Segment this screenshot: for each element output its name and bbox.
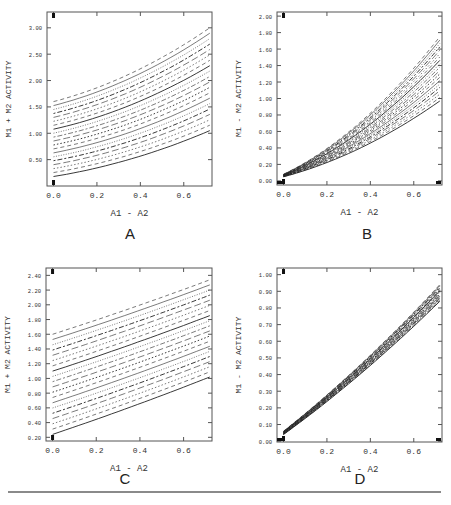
y-axis-label: M1 + M2 ACTIVITY: [4, 60, 13, 137]
x-tick-label: 0.0: [45, 446, 60, 455]
x-tick-label: 0.4: [363, 447, 378, 456]
plot-frame: [46, 268, 212, 441]
y-tick-label: 0.60: [259, 129, 272, 136]
y-tick-label: 0.40: [28, 420, 41, 427]
y-tick-label: 1.00: [28, 376, 41, 383]
data-curve: [54, 131, 210, 177]
y-tick-label: 0.40: [259, 372, 272, 379]
data-curve: [53, 280, 210, 335]
data-curve: [53, 290, 210, 345]
data-curve: [284, 40, 440, 174]
data-curve: [54, 71, 210, 133]
x-tick-label: 0.0: [276, 190, 291, 199]
plot-frame: [277, 268, 442, 442]
x-tick-label: 0.4: [133, 191, 148, 200]
y-tick-label: 0.80: [259, 305, 272, 312]
x-tick-label: 0.2: [320, 447, 335, 456]
data-curve: [54, 60, 210, 125]
data-curve: [284, 47, 440, 175]
data-curve: [53, 300, 210, 355]
y-tick-label: 0.20: [259, 405, 272, 412]
y-axis-label: M1 - M2 ACTIVITY: [234, 316, 243, 393]
data-curve: [284, 50, 440, 175]
data-curve: [54, 82, 210, 141]
x-tick-label: 0.6: [407, 447, 422, 456]
panel-title-c: C: [110, 470, 140, 487]
data-curve: [54, 50, 210, 118]
data-curve: [53, 305, 210, 360]
x-tick-label: 0.2: [90, 191, 105, 200]
y-tick-label: 1.60: [259, 47, 272, 54]
y-tick-label: 1.40: [28, 346, 41, 353]
y-tick-label: 1.80: [28, 317, 41, 324]
data-curve: [284, 287, 440, 431]
bottom-divider: [8, 491, 441, 493]
data-curve: [284, 71, 440, 176]
y-tick-label: 0.20: [28, 435, 41, 442]
data-curve: [284, 285, 440, 432]
chart-b-svg: 0.00.20.40.60.000.200.400.600.801.001.20…: [225, 0, 451, 250]
data-curve: [284, 286, 440, 431]
y-tick-label: 1.00: [259, 272, 272, 279]
y-tick-label: 1.50: [29, 104, 42, 111]
plot-frame: [277, 12, 442, 185]
y-tick-label: 2.50: [29, 52, 42, 59]
data-curve: [53, 295, 210, 350]
y-tick-label: 2.40: [28, 273, 41, 280]
data-curve: [54, 109, 210, 161]
y-tick-label: 1.80: [259, 30, 272, 37]
y-tick-label: 2.00: [28, 302, 41, 309]
x-tick-label: 0.2: [89, 446, 104, 455]
chart-panel-a: 0.00.20.40.60.501.001.502.002.503.00A1 -…: [0, 0, 225, 250]
y-tick-label: 0.80: [28, 391, 41, 398]
data-curve: [284, 64, 440, 176]
x-tick-label: 0.6: [177, 191, 192, 200]
data-curve: [284, 60, 440, 175]
x-tick-label: 0.0: [276, 447, 291, 456]
panel-title-b: B: [352, 225, 382, 242]
y-tick-label: 0.00: [259, 439, 272, 446]
data-curve: [284, 291, 440, 433]
data-curve: [284, 290, 440, 432]
plot-frame: [47, 12, 212, 186]
y-axis-label: M1 - M2 ACTIVITY: [234, 60, 243, 137]
x-tick-label: 0.6: [176, 446, 191, 455]
data-curve: [284, 44, 440, 175]
x-tick-label: 0.2: [320, 190, 335, 199]
x-tick-label: 0.0: [46, 191, 61, 200]
y-tick-label: 0.60: [28, 405, 41, 412]
y-tick-label: 1.40: [259, 63, 272, 70]
y-tick-label: 0.50: [259, 355, 272, 362]
data-curve: [54, 114, 210, 164]
data-curve: [284, 286, 440, 432]
x-tick-label: 0.4: [363, 190, 378, 199]
data-curve: [53, 326, 210, 382]
y-tick-label: 3.00: [29, 25, 42, 32]
y-tick-label: 1.20: [28, 361, 41, 368]
y-tick-label: 1.60: [28, 332, 41, 339]
x-tick-label: 0.4: [133, 446, 148, 455]
chart-d-svg: 0.00.20.40.60.000.100.200.300.400.500.60…: [225, 250, 451, 490]
y-tick-label: 0.00: [259, 178, 272, 185]
y-tick-label: 0.20: [259, 162, 272, 169]
x-axis-label: A1 - A2: [341, 208, 379, 218]
data-curve: [53, 357, 210, 414]
y-tick-label: 1.20: [259, 80, 272, 87]
chart-panel-b: 0.00.20.40.60.000.200.400.600.801.001.20…: [225, 0, 451, 250]
y-tick-label: 0.10: [259, 422, 272, 429]
data-curve: [284, 57, 440, 175]
data-curve: [54, 98, 210, 153]
y-tick-label: 0.80: [259, 112, 272, 119]
data-curve: [53, 362, 210, 419]
x-tick-label: 0.6: [407, 190, 422, 199]
data-curve: [54, 125, 210, 172]
y-tick-label: 0.60: [259, 339, 272, 346]
data-curve: [54, 120, 210, 169]
y-tick-label: 2.00: [29, 78, 42, 85]
data-curve: [53, 331, 210, 387]
x-axis-label: A1 - A2: [111, 209, 149, 219]
y-tick-label: 0.90: [259, 289, 272, 296]
y-tick-label: 1.00: [259, 96, 272, 103]
data-curve: [54, 77, 210, 138]
chart-a-svg: 0.00.20.40.60.501.001.502.002.503.00A1 -…: [0, 0, 225, 250]
